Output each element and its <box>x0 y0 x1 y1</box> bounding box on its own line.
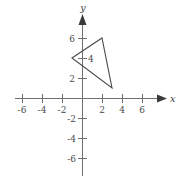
coordinate-plane-figure: -6 -4 -2 2 4 6 6 4 2 -2 -4 -6 x y <box>0 0 181 183</box>
y-tick-label-4: 4 <box>88 54 94 64</box>
y-tick-label-minus6: -6 <box>67 154 76 164</box>
x-tick-label-6: 6 <box>139 105 145 115</box>
y-tick-label-2: 2 <box>69 74 75 84</box>
y-axis-arrow-icon <box>79 14 87 25</box>
x-tick-label-4: 4 <box>119 105 125 115</box>
x-tick-label-minus6: -6 <box>18 105 27 115</box>
x-axis-arrow-icon <box>157 95 167 103</box>
coordinate-plane-svg: -6 -4 -2 2 4 6 6 4 2 -2 -4 -6 x y <box>0 0 181 183</box>
y-tick-label-minus4: -4 <box>67 134 76 144</box>
x-tick-label-2: 2 <box>99 105 105 115</box>
y-tick-label-6: 6 <box>69 34 75 44</box>
x-axis-label: x <box>170 93 176 104</box>
x-tick-label-minus2: -2 <box>58 105 67 115</box>
y-axis-label: y <box>79 2 86 13</box>
y-tick-label-minus2: -2 <box>67 114 76 124</box>
x-tick-label-minus4: -4 <box>38 105 47 115</box>
